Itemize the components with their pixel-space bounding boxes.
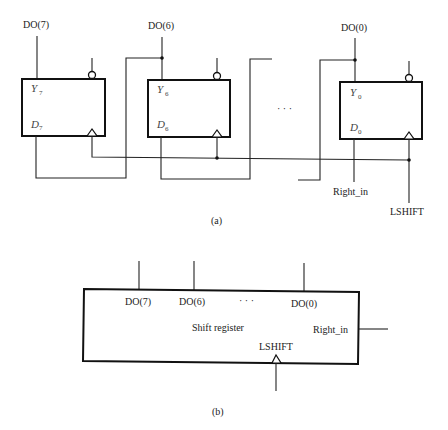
do6-label: DO(6): [148, 20, 174, 32]
shift-register-diagram: DO(7) DO(6) DO(0) Y 7 D 7 Y 6 D 6: [0, 0, 448, 430]
d7-label: D: [30, 118, 39, 130]
flipflop-0: Y 0 D 0: [340, 38, 422, 139]
figure-b: DO(7) DO(6) · · · DO(0) Shift register R…: [83, 261, 388, 418]
junction-dot: [353, 58, 357, 62]
junction-dot: [215, 156, 219, 160]
d0-label: D: [349, 121, 358, 133]
inverted-set-bubble-icon: [214, 73, 221, 80]
flipflop-7: Y 7 D 7: [22, 36, 105, 136]
d6-label: D: [156, 118, 165, 130]
lshift-input-label: LSHIFT: [259, 341, 293, 352]
inverted-set-bubble-icon: [406, 75, 413, 82]
lshift-label: LSHIFT: [390, 206, 424, 217]
d0-sub: 0: [358, 128, 362, 136]
junction-dot: [160, 56, 164, 60]
do7-label: DO(7): [23, 19, 49, 31]
right-in-input-label: Right_in: [313, 324, 348, 335]
d6-sub: 6: [165, 125, 169, 133]
do7-output-label: DO(7): [125, 296, 151, 308]
ellipsis: · · ·: [277, 103, 292, 114]
y0-sub: 0: [358, 93, 362, 101]
shift-register-title: Shift register: [192, 322, 245, 333]
caption-b: (b): [212, 406, 224, 418]
ellipsis: · · ·: [239, 295, 254, 306]
figure-a: DO(7) DO(6) DO(0) Y 7 D 7 Y 6 D 6: [22, 19, 424, 227]
do6-output-label: DO(6): [179, 296, 205, 308]
d7-sub: 7: [39, 124, 43, 132]
junction-dot: [407, 158, 411, 162]
do0-output-label: DO(0): [291, 298, 317, 310]
flipflop-6: Y 6 D 6: [148, 37, 230, 137]
y7-sub: 7: [39, 89, 43, 97]
caption-a: (a): [211, 215, 222, 227]
inverted-set-bubble-icon: [89, 72, 96, 79]
right-in-label: Right_in: [333, 186, 368, 197]
y6-sub: 6: [165, 90, 169, 98]
do0-label: DO(0): [341, 22, 367, 34]
